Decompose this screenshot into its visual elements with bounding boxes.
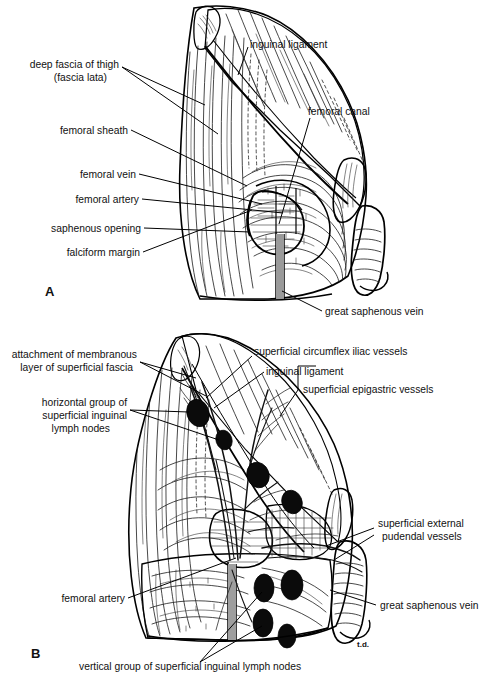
- label-horizontal-group-line3: lymph nodes: [52, 423, 110, 434]
- label-great-saphenous-vein-a: great saphenous vein: [325, 306, 424, 317]
- panel-b-letter: B: [31, 646, 40, 661]
- label-inguinal-ligament-a: inguinal ligament: [250, 39, 327, 50]
- label-saphenous-opening: saphenous opening: [51, 223, 141, 234]
- label-femoral-vein: femoral vein: [80, 169, 136, 180]
- anatomy-figure: deep fascia of thigh (fascia lata) femor…: [0, 0, 491, 685]
- lymph-node: [281, 570, 303, 600]
- label-attachment-line2: layer of superficial fascia: [20, 362, 133, 373]
- label-femoral-canal: femoral canal: [308, 106, 370, 117]
- panel-b-lateral-flap: [325, 488, 370, 643]
- label-falciform-margin: falciform margin: [67, 247, 141, 258]
- label-inguinal-ligament-b: inguinal ligament: [266, 366, 343, 377]
- label-femoral-artery-b: femoral artery: [61, 593, 125, 604]
- panel-a-great-saphenous-vein: [276, 232, 284, 299]
- label-femoral-sheath: femoral sheath: [60, 125, 128, 136]
- label-superficial-external-line2: pudendal vessels: [382, 531, 462, 542]
- lymph-node: [253, 609, 273, 637]
- panel-a-letter: A: [45, 284, 55, 299]
- label-femoral-artery: femoral artery: [75, 194, 139, 205]
- artist-signature: t.d.: [357, 640, 369, 649]
- label-vertical-group: vertical group of superficial inguinal l…: [79, 661, 301, 672]
- panel-a-illustration: deep fascia of thigh (fascia lata) femor…: [0, 0, 491, 330]
- label-superficial-circumflex: superficial circumflex iliac vessels: [254, 346, 407, 357]
- label-superficial-epigastric: superficial epigastric vessels: [303, 384, 433, 395]
- label-deep-fascia-line1: deep fascia of thigh: [30, 59, 120, 70]
- panel-b-lower-border: [148, 628, 328, 641]
- label-great-saphenous-vein-b: great saphenous vein: [380, 600, 479, 611]
- label-superficial-external-line1: superficial external: [378, 518, 464, 529]
- label-horizontal-group-line2: superficial inguinal: [42, 410, 127, 421]
- label-attachment-line1: attachment of membranous: [12, 349, 137, 360]
- label-horizontal-group-line1: horizontal group of: [42, 397, 127, 408]
- panel-b-illustration: attachment of membranous layer of superf…: [0, 320, 491, 685]
- label-deep-fascia-line2: (fascia lata): [54, 72, 107, 83]
- lymph-node: [278, 487, 306, 517]
